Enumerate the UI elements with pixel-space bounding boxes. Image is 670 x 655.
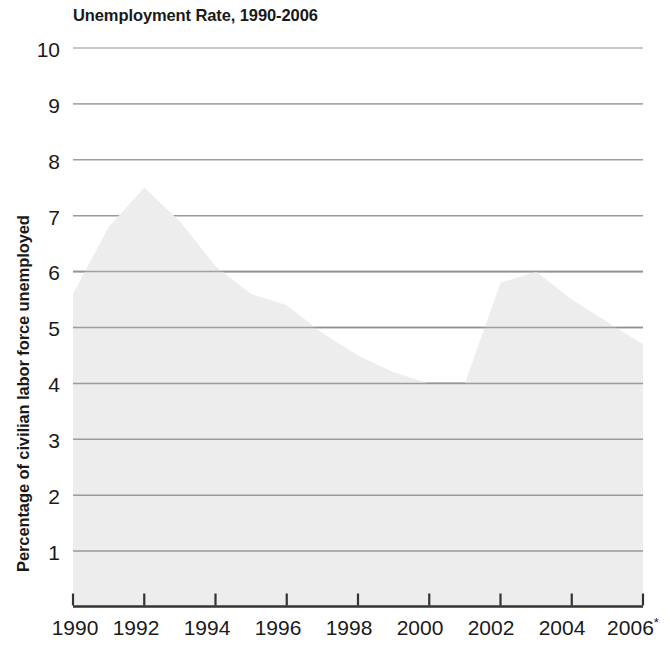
unemployment-area-series (73, 188, 643, 607)
x-tick-label-2000: 2000 (390, 617, 450, 638)
x-tick-label-1994: 1994 (177, 617, 237, 638)
footnote-asterisk: * (654, 615, 659, 630)
chart-figure: Unemployment Rate, 1990-2006 Percentage … (0, 0, 670, 655)
x-tick-label-2006: 2006* (603, 617, 663, 638)
x-tick-label-1990: 1990 (45, 617, 105, 638)
x-tick-label-1992: 1992 (106, 617, 166, 638)
plot-area (0, 0, 670, 655)
x-tick-label-2004: 2004 (532, 617, 592, 638)
x-tick-label-2002: 2002 (461, 617, 521, 638)
x-tick-label-1996: 1996 (248, 617, 308, 638)
x-tick-label-2006-text: 2006 (607, 616, 654, 639)
x-tick-label-1998: 1998 (319, 617, 379, 638)
